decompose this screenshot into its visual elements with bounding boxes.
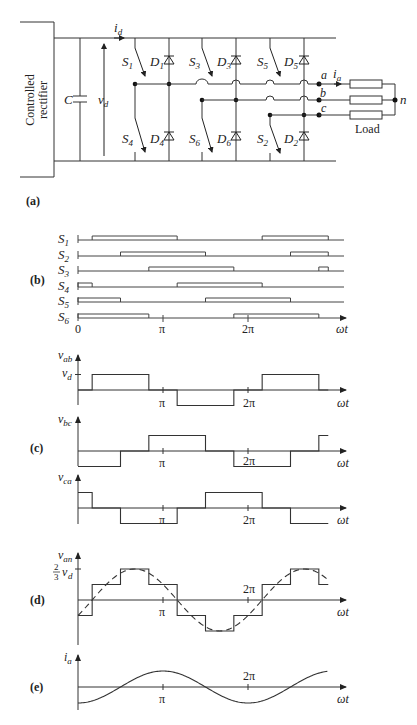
vd-level-label: vd <box>62 366 72 382</box>
diode-d6-label: D6 <box>216 131 231 148</box>
gating-label-s6: S6 <box>58 309 70 326</box>
phase-c-label: c <box>321 101 327 115</box>
two-thirds-vd-label: 2 3 v d <box>53 562 73 582</box>
svg-text:π: π <box>159 322 165 336</box>
switch-s2-label: S2 <box>257 131 269 148</box>
svg-text:2π: 2π <box>243 582 255 596</box>
diode-d3-label: D3 <box>216 54 231 71</box>
diode-d4-label: D4 <box>149 131 164 148</box>
waveform-charts <box>75 355 346 710</box>
svg-text:ωt: ωt <box>337 692 349 706</box>
circuit-diagram: Controlled rectifier id C vd <box>20 20 407 177</box>
panel-label-c: (c) <box>30 441 43 455</box>
switch-s4-label: S4 <box>122 131 134 148</box>
svg-text:2π: 2π <box>243 669 255 683</box>
switch-s3-label: S3 <box>189 54 201 71</box>
svg-text:2π: 2π <box>243 396 255 410</box>
load-network <box>317 80 398 119</box>
phase-a-label: a <box>321 68 327 82</box>
svg-text:2π: 2π <box>243 454 255 468</box>
gating-row-s3: S3 <box>58 262 344 279</box>
neutral-node <box>393 98 398 103</box>
vbc-label: vbc <box>58 412 72 428</box>
switch-s5-label: S5 <box>257 54 269 71</box>
svg-text:d: d <box>68 571 73 581</box>
inverter-leg-a <box>133 38 196 161</box>
ia-label: ia <box>333 66 342 83</box>
ia-axes <box>78 655 346 710</box>
neutral-label: n <box>400 92 407 107</box>
switch-s1-label: S1 <box>122 54 133 71</box>
van-label: van <box>58 548 73 564</box>
phase-b-label: b <box>320 86 326 100</box>
panel-label-a: (a) <box>26 194 40 208</box>
gating-row-s4: S4 <box>58 278 344 295</box>
capacitor-icon <box>73 38 87 161</box>
svg-text:ωt: ωt <box>337 605 349 619</box>
gating-label-s3: S3 <box>58 262 70 279</box>
gating-axis-labels: 0 π 2π ωt <box>75 322 348 336</box>
gating-row-s6: S6 <box>58 309 346 326</box>
load-label: Load <box>355 122 380 136</box>
panel-label-e: (e) <box>30 680 43 694</box>
vca-label: vca <box>58 470 72 486</box>
svg-text:0: 0 <box>75 322 81 336</box>
gating-row-s2: S2 <box>58 247 344 264</box>
svg-text:2π: 2π <box>243 513 255 527</box>
svg-text:ωt: ωt <box>336 322 348 336</box>
vbc-axes <box>78 417 346 467</box>
gating-signals-chart: S1S2S3S4S5S6 <box>58 231 346 326</box>
waveform-tick-labels: π 2π ωt π 2π ωt π 2π ωt π 2π ωt π 2π ωt <box>159 396 349 706</box>
load-resistor-a <box>350 80 382 88</box>
v-ca-wave <box>78 493 328 524</box>
panel-label-b: (b) <box>30 273 45 287</box>
vca-axes <box>78 475 346 524</box>
vab-axes <box>78 355 346 406</box>
panel-label-d: (d) <box>30 593 45 607</box>
svg-text:2: 2 <box>54 562 59 572</box>
van-axes <box>75 553 346 645</box>
vab-label: vab <box>58 348 73 364</box>
switch-s6-label: S6 <box>189 131 201 148</box>
svg-text:ωt: ωt <box>337 513 349 527</box>
diode-d1-label: D1 <box>149 54 164 71</box>
svg-text:ωt: ωt <box>337 456 349 470</box>
load-resistor-c <box>350 111 382 119</box>
rectifier-label-1: Controlled <box>23 74 37 125</box>
capacitor-label: C <box>64 92 73 107</box>
svg-text:π: π <box>159 605 165 619</box>
gating-row-s1: S1 <box>58 231 344 248</box>
gating-row-s5: S5 <box>58 293 344 310</box>
converter-figure: Controlled rectifier id C vd <box>0 0 417 725</box>
gating-label-s1: S1 <box>58 231 69 248</box>
diode-d2-label: D2 <box>283 131 298 148</box>
vd-label: vd <box>98 92 109 109</box>
svg-text:π: π <box>159 456 165 470</box>
svg-text:3: 3 <box>54 572 59 582</box>
diode-d5-label: D5 <box>283 54 298 71</box>
rectifier-label-2: rectifier <box>36 81 50 119</box>
id-label: id <box>114 20 123 37</box>
ia-wave-label: ia <box>64 650 72 666</box>
svg-text:2π: 2π <box>242 322 254 336</box>
svg-text:ωt: ωt <box>337 396 349 410</box>
load-resistor-b <box>350 96 382 104</box>
svg-text:π: π <box>159 692 165 706</box>
svg-text:π: π <box>159 396 165 410</box>
svg-text:π: π <box>159 513 165 527</box>
gating-label-s5: S5 <box>58 293 70 310</box>
